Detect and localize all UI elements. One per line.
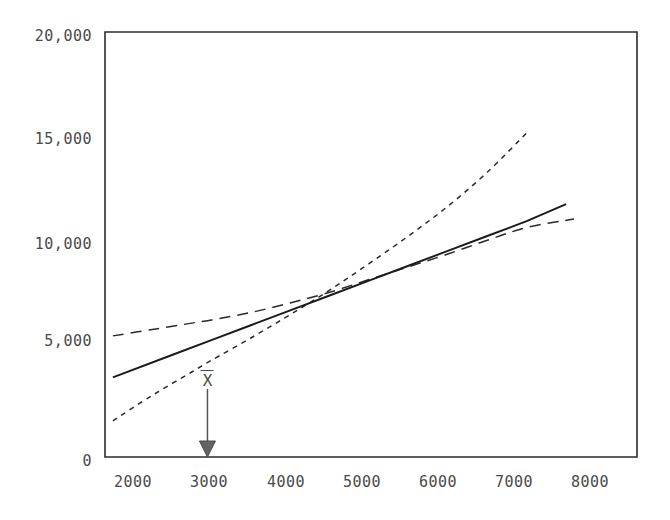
x-tick-label-4000: 4000 <box>267 473 305 491</box>
x-tick-label-7000: 7000 <box>495 473 533 491</box>
y-tick-label-5000: 5,000 <box>8 332 92 350</box>
x-tick-label-6000: 6000 <box>419 473 457 491</box>
mean-arrow <box>199 389 215 457</box>
upper-confidence-band <box>113 133 527 421</box>
regression-line <box>113 204 566 377</box>
plot-svg <box>0 0 670 520</box>
x-tick-label-3000: 3000 <box>190 473 228 491</box>
y-tick-label-20000: 20,000 <box>8 27 92 45</box>
x-tick-label-5000: 5000 <box>343 473 381 491</box>
mean-label-text: X <box>203 371 213 390</box>
x-tick-label-2000: 2000 <box>114 473 152 491</box>
x-tick-label-8000: 8000 <box>571 473 609 491</box>
mean-label-xbar: X <box>201 370 214 389</box>
plot-frame <box>105 32 637 457</box>
y-tick-label-15000: 15,000 <box>8 130 92 148</box>
lower-confidence-band <box>113 219 574 336</box>
y-tick-label-0: 0 <box>8 452 92 470</box>
chart-container: 20,000 15,000 10,000 5,000 0 2000 3000 4… <box>0 0 670 520</box>
y-tick-label-10000: 10,000 <box>8 235 92 253</box>
